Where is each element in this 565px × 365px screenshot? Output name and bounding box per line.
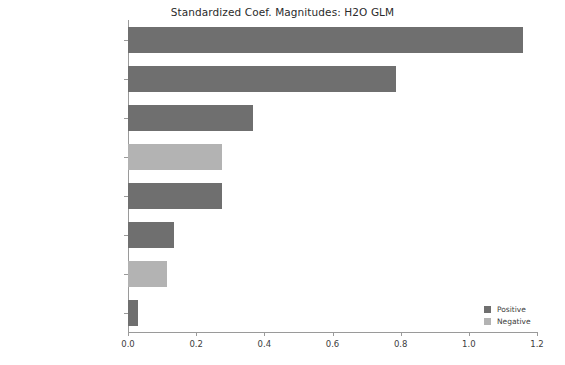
bar-rect (128, 27, 523, 53)
x-tick-label-0.6: 0.6 (326, 339, 340, 349)
legend-label: Positive (497, 305, 526, 314)
x-tick-label-0.0: 0.0 (121, 339, 135, 349)
x-tick-label-0.4: 0.4 (258, 339, 272, 349)
bar-rect (128, 222, 174, 248)
x-tick-mark (333, 332, 334, 336)
bar-bloodpressure (128, 144, 222, 170)
bar-insulin (128, 261, 167, 287)
bar-rect (128, 144, 222, 170)
x-tick-mark (469, 332, 470, 336)
bar-glucose (128, 27, 523, 53)
bar-rect (128, 300, 138, 326)
x-tick-label-0.2: 0.2 (189, 339, 203, 349)
chart-legend: PositiveNegative (484, 304, 531, 328)
x-tick-label-1.2: 1.2 (530, 339, 544, 349)
bar-age (128, 222, 174, 248)
bar-bmi (128, 66, 396, 92)
legend-swatch-icon (484, 306, 491, 313)
x-tick-mark (128, 332, 129, 336)
x-tick-mark (401, 332, 402, 336)
x-tick-mark (196, 332, 197, 336)
legend-swatch-icon (484, 318, 491, 325)
chart-title: Standardized Coef. Magnitudes: H2O GLM (0, 6, 565, 18)
x-tick-label-0.8: 0.8 (394, 339, 408, 349)
legend-label: Negative (497, 317, 531, 326)
x-tick-mark (264, 332, 265, 336)
bar-rect (128, 105, 253, 131)
bar-chart-figure: Standardized Coef. Magnitudes: H2O GLM G… (0, 0, 565, 365)
bar-rect (128, 183, 222, 209)
bar-rect (128, 66, 396, 92)
bar-skinthickness (128, 300, 138, 326)
legend-entry-positive: Positive (484, 304, 531, 315)
bar-rect (128, 261, 167, 287)
x-tick-label-1.0: 1.0 (462, 339, 476, 349)
legend-entry-negative: Negative (484, 316, 531, 327)
bar-diabetespedigreefunction (128, 183, 222, 209)
x-tick-mark (537, 332, 538, 336)
bar-pregnancies (128, 105, 253, 131)
